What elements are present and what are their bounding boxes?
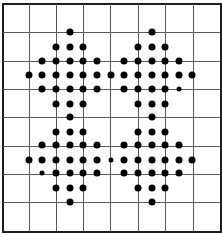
dot — [135, 100, 142, 107]
dot — [93, 58, 100, 65]
dot — [176, 87, 181, 92]
dot — [66, 114, 73, 121]
dot — [108, 158, 113, 163]
dot — [148, 185, 155, 192]
dot — [52, 128, 59, 135]
dot — [148, 142, 155, 149]
dot — [148, 44, 155, 51]
grid-horizontal-line — [3, 32, 220, 33]
dot — [135, 142, 142, 149]
grid-horizontal-line — [3, 174, 220, 175]
dot — [189, 72, 196, 79]
dot — [175, 157, 182, 164]
dot — [66, 170, 73, 177]
dot — [52, 44, 59, 51]
dot — [52, 100, 59, 107]
dot — [80, 142, 87, 149]
dot — [162, 128, 169, 135]
dot — [66, 72, 73, 79]
dot — [26, 157, 33, 164]
dot — [66, 58, 73, 65]
dot — [148, 128, 155, 135]
dot — [135, 58, 142, 65]
dot — [135, 44, 142, 51]
dot — [39, 86, 46, 93]
dot — [93, 170, 100, 177]
dot — [162, 185, 169, 192]
dot — [135, 72, 142, 79]
dot — [93, 157, 100, 164]
dot — [107, 72, 114, 79]
grid-horizontal-line — [3, 61, 220, 62]
dot — [148, 170, 155, 177]
dot — [121, 58, 128, 65]
dot — [66, 199, 73, 206]
dot — [66, 157, 73, 164]
dot — [135, 157, 142, 164]
dot — [66, 185, 73, 192]
dot — [121, 72, 128, 79]
dot — [80, 44, 87, 51]
dot — [66, 142, 73, 149]
dot — [80, 100, 87, 107]
dot — [162, 170, 169, 177]
dot — [148, 29, 155, 36]
dot — [162, 100, 169, 107]
dot — [80, 86, 87, 93]
dot — [52, 86, 59, 93]
dot — [39, 142, 46, 149]
dot — [52, 58, 59, 65]
dot — [80, 128, 87, 135]
grid-horizontal-line — [3, 202, 220, 203]
dot — [52, 157, 59, 164]
dot — [135, 128, 142, 135]
dot — [26, 72, 33, 79]
grid-horizontal-line — [3, 146, 220, 147]
dot-grid-board — [0, 0, 222, 237]
dot — [175, 170, 182, 177]
grid-border — [2, 3, 222, 233]
dot — [121, 86, 128, 93]
dot — [148, 100, 155, 107]
dot — [162, 44, 169, 51]
dot — [135, 185, 142, 192]
dot — [80, 157, 87, 164]
dot — [52, 185, 59, 192]
dot — [52, 142, 59, 149]
dot — [148, 86, 155, 93]
grid-horizontal-line — [3, 89, 220, 90]
dot — [135, 170, 142, 177]
dot — [80, 72, 87, 79]
dot — [189, 157, 196, 164]
dot — [39, 72, 46, 79]
dot — [39, 157, 46, 164]
dot — [121, 170, 128, 177]
dot — [52, 170, 59, 177]
dot — [93, 142, 100, 149]
grid-horizontal-line — [3, 117, 220, 118]
dot — [148, 58, 155, 65]
dot — [162, 58, 169, 65]
dot — [66, 128, 73, 135]
dot — [148, 114, 155, 121]
dot — [162, 72, 169, 79]
dot — [162, 86, 169, 93]
dot — [162, 142, 169, 149]
dot — [52, 72, 59, 79]
dot — [121, 142, 128, 149]
dot — [148, 72, 155, 79]
dot — [175, 142, 182, 149]
dot — [80, 185, 87, 192]
dot — [66, 44, 73, 51]
dot — [80, 170, 87, 177]
dot — [66, 86, 73, 93]
dot — [93, 72, 100, 79]
dot — [80, 58, 87, 65]
dot — [66, 100, 73, 107]
dot — [121, 157, 128, 164]
dot — [93, 86, 100, 93]
dot — [135, 86, 142, 93]
dot — [40, 171, 45, 176]
dot — [148, 199, 155, 206]
dot — [175, 72, 182, 79]
